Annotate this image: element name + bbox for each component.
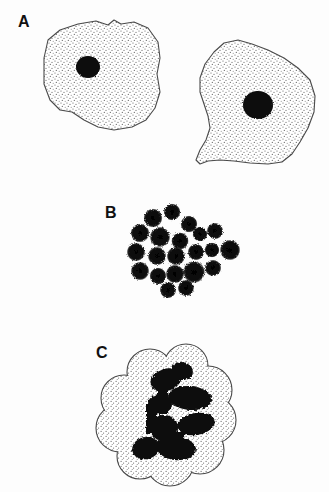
blob (130, 223, 149, 242)
blob (163, 203, 180, 220)
blob (150, 227, 171, 248)
blob (188, 244, 205, 261)
cell-a-left-nucleus (76, 56, 100, 78)
blob (148, 247, 167, 266)
blob (160, 282, 177, 299)
panel-label-c: C (96, 345, 108, 361)
blob (143, 208, 162, 227)
panel-c-group (96, 344, 236, 486)
blob (192, 226, 207, 241)
blob (178, 280, 195, 297)
panel-label-b: B (105, 205, 117, 221)
cell-a-right-nucleus (243, 91, 273, 119)
panel-a-group (44, 20, 315, 164)
blob (205, 260, 222, 277)
cell-a-left-cytoplasm (44, 20, 160, 130)
blob (149, 267, 166, 284)
blob (166, 265, 185, 284)
panel-label-a: A (18, 14, 30, 30)
cell-a-right (196, 40, 315, 164)
figure-canvas (0, 0, 329, 492)
panel-b-group (127, 203, 241, 298)
blob (127, 243, 146, 262)
cell-a-left (44, 20, 160, 130)
blob (204, 242, 219, 257)
cell-morphology-figure: A B C (0, 0, 329, 492)
blob (220, 240, 241, 261)
blob (207, 223, 224, 240)
cell-c-lobed-outline (96, 344, 236, 486)
blob (131, 262, 150, 281)
blob (167, 247, 186, 266)
